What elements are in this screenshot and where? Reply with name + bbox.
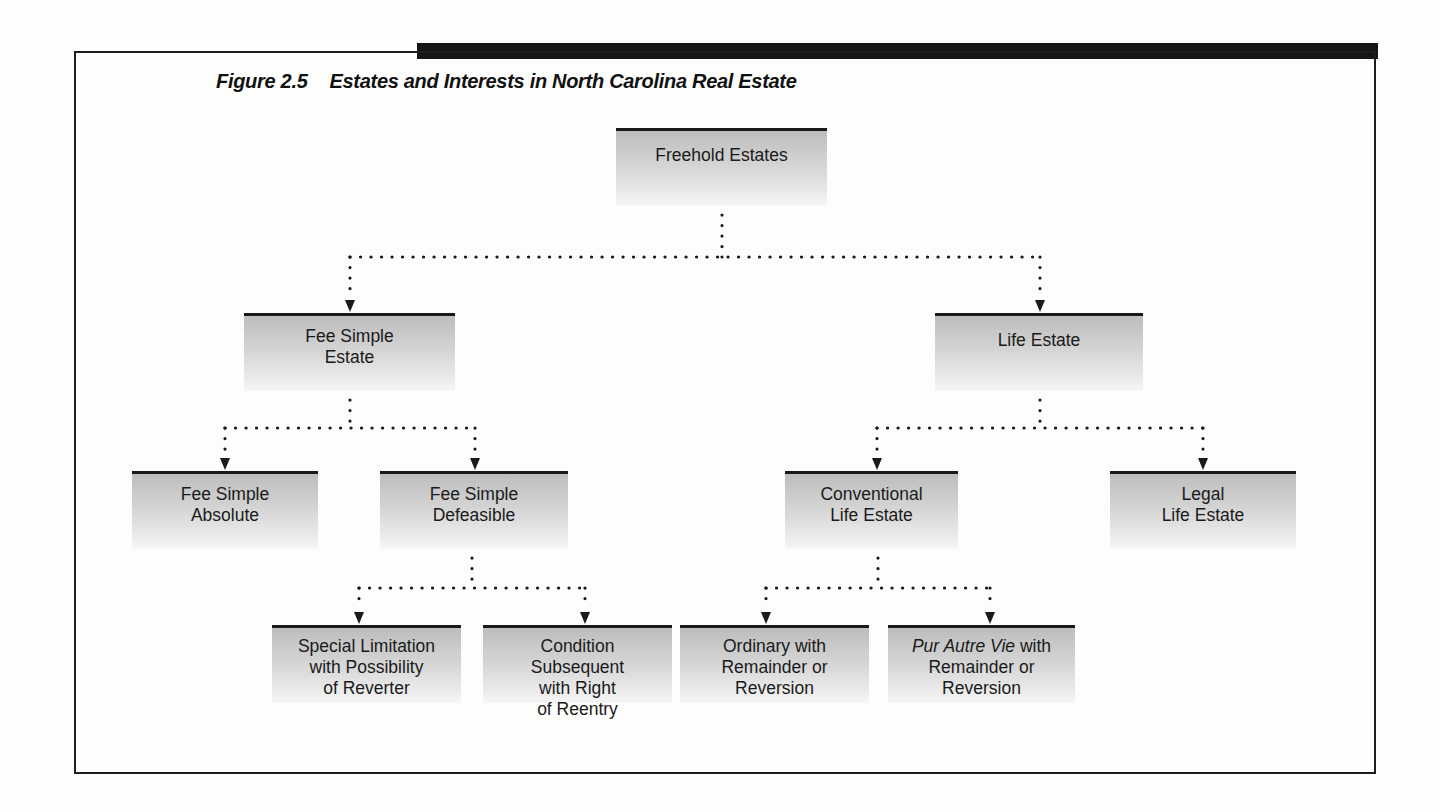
node-conventional-life-estate: Conventional Life Estate [785,471,958,549]
node-life-estate: Life Estate [935,313,1143,391]
node-label: Fee Simple [305,326,394,347]
node-label: Life Estate [998,330,1081,351]
node-label: Pur Autre Vie with [912,636,1051,657]
node-label: Ordinary with [723,636,826,657]
node-label: Freehold Estates [655,145,787,166]
node-label: Conventional [820,484,922,505]
italic-term: Pur Autre Vie [912,636,1015,656]
node-label: Legal [1182,484,1225,505]
node-label: Reversion [735,678,814,699]
node-label: of Reverter [323,678,410,699]
node-fee-simple-defeasible: Fee Simple Defeasible [380,471,568,549]
node-legal-life-estate: Legal Life Estate [1110,471,1296,549]
node-label: Estate [325,347,375,368]
node-label: of Reentry [537,699,618,720]
figure-number: Figure 2.5 [216,70,307,93]
node-label: Defeasible [433,505,516,526]
node-label: Condition [541,636,615,657]
figure-caption: Estates and Interests in North Carolina … [329,70,796,92]
node-label: Life Estate [1162,505,1245,526]
node-label: Fee Simple [430,484,519,505]
node-ordinary-remainder-reversion: Ordinary with Remainder or Reversion [680,625,869,703]
node-label: Remainder or [928,657,1034,678]
node-label: Reversion [942,678,1021,699]
node-label: Fee Simple [181,484,270,505]
node-fee-simple-absolute: Fee Simple Absolute [132,471,318,549]
node-label: Special Limitation [298,636,435,657]
node-label: Life Estate [830,505,913,526]
node-label: Remainder or [721,657,827,678]
node-label: Absolute [191,505,259,526]
figure-title: Figure 2.5Estates and Interests in North… [216,70,797,96]
node-special-limitation: Special Limitation with Possibility of R… [272,625,461,703]
node-pur-autre-vie: Pur Autre Vie with Remainder or Reversio… [888,625,1075,703]
node-label: Subsequent [531,657,624,678]
node-freehold-estates: Freehold Estates [616,128,827,206]
node-label: with Right [539,678,616,699]
node-label: with Possibility [310,657,424,678]
node-fee-simple-estate: Fee Simple Estate [244,313,455,391]
node-condition-subsequent: Condition Subsequent with Right of Reent… [483,625,672,703]
